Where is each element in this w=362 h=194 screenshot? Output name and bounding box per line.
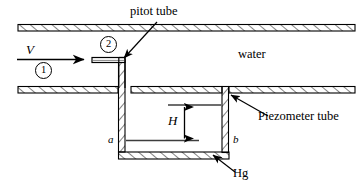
height-label: H [168, 114, 177, 127]
piezometer-tube-label: Piezometer tube [258, 110, 339, 123]
station-2-marker: 2 [100, 36, 117, 53]
mercury-label: Hg [233, 167, 248, 180]
pitot-tube-label: pitot tube [130, 5, 178, 18]
velocity-label: V [26, 43, 34, 56]
manometer-right-wall [222, 87, 229, 153]
upper-pipe-wall [18, 25, 355, 32]
point-b-label: b [233, 134, 239, 145]
station-1-marker: 1 [35, 62, 52, 79]
lower-pipe-wall-right [229, 87, 355, 94]
lower-pipe-wall-left [18, 87, 118, 94]
point-a-label: a [108, 134, 114, 145]
water-label: water [238, 48, 266, 61]
fluid-mechanics-diagram: pitot tube water Piezometer tube Hg V H … [0, 0, 362, 194]
diagram-canvas [0, 0, 362, 194]
lower-pipe-wall-middle [131, 87, 222, 94]
manometer-bottom-wall [119, 152, 230, 159]
manometer-left-wall [119, 60, 126, 152]
